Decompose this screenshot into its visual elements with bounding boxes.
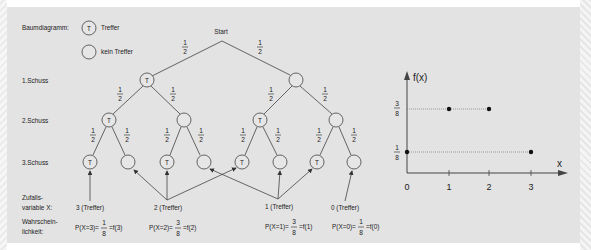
svg-text:2: 2 <box>269 95 273 102</box>
svg-text:P(X=1)=: P(X=1)= <box>265 223 289 231</box>
outcome-arrows <box>90 168 352 201</box>
tree-leaf-8 <box>347 155 361 169</box>
tree-node-l2-miss-a <box>177 113 191 127</box>
svg-text:T: T <box>240 159 244 166</box>
svg-text:3: 3 <box>292 218 296 225</box>
svg-text:1: 1 <box>118 86 122 93</box>
svg-text:1: 1 <box>258 39 262 46</box>
x-axis-label: x <box>557 158 562 169</box>
svg-text:1: 1 <box>171 86 175 93</box>
svg-text:2: 2 <box>165 136 169 143</box>
svg-text:1: 1 <box>359 218 363 225</box>
outcome-3: 3 (Treffer) <box>76 204 104 212</box>
svg-text:3: 3 <box>528 182 533 192</box>
svg-text:1: 1 <box>352 127 356 134</box>
svg-text:1: 1 <box>125 127 129 134</box>
svg-text:8: 8 <box>176 230 180 237</box>
random-variable-label-2: variable X: <box>22 204 52 211</box>
y-axis-arrow-icon <box>404 71 410 80</box>
svg-text:3: 3 <box>395 100 399 107</box>
svg-text:2: 2 <box>323 95 327 102</box>
probability-p2: P(X=2)= 3 8 =f(2) <box>149 219 196 237</box>
tree-node-l2-miss-b <box>329 113 343 127</box>
legend-hit-symbol: T <box>87 25 91 32</box>
svg-text:8: 8 <box>359 229 363 236</box>
svg-text:1: 1 <box>241 127 245 134</box>
random-variable-label-1: Zufalls- <box>22 194 43 201</box>
tree-node-l1-miss <box>289 73 303 87</box>
data-point-x3 <box>529 150 533 154</box>
svg-text:2: 2 <box>258 48 262 55</box>
tree-leaf-6 <box>273 155 287 169</box>
legend-title: Baumdiagramm: <box>22 24 69 32</box>
svg-text:2: 2 <box>352 136 356 143</box>
outcome-1: 1 (Treffer) <box>265 203 293 211</box>
svg-text:1: 1 <box>446 182 451 192</box>
svg-text:8: 8 <box>395 154 399 161</box>
tree-node-l1-hit-label: T <box>145 77 149 84</box>
svg-text:2: 2 <box>241 136 245 143</box>
svg-text:8: 8 <box>102 230 106 237</box>
legend-hit-label: Treffer <box>101 24 120 31</box>
svg-text:8: 8 <box>292 229 296 236</box>
svg-text:2: 2 <box>317 136 321 143</box>
tree-leaf-2 <box>121 155 135 169</box>
data-point-x2 <box>487 107 491 111</box>
svg-text:T: T <box>88 159 92 166</box>
svg-text:2: 2 <box>91 136 95 143</box>
outcome-0: 0 (Treffer) <box>331 204 359 212</box>
tree-leaves: T T T T <box>83 155 361 169</box>
tree-leaf-4 <box>197 155 211 169</box>
svg-text:1: 1 <box>199 127 203 134</box>
svg-text:P(X=2)=: P(X=2)= <box>149 224 173 232</box>
svg-text:P(X=0)=: P(X=0)= <box>332 223 356 231</box>
probability-p1: P(X=1)= 3 8 =f(1) <box>265 218 312 236</box>
data-point-x0 <box>405 150 409 154</box>
diagram-canvas: Baumdiagramm: T Treffer kein Treffer 1.S… <box>0 0 591 250</box>
x-axis-arrow-icon <box>558 170 568 176</box>
svg-text:2: 2 <box>486 182 491 192</box>
level-label-1: 1.Schuss <box>22 77 48 84</box>
svg-text:8: 8 <box>395 110 399 117</box>
svg-text:1: 1 <box>102 219 106 226</box>
level-label-2: 2.Schuss <box>22 117 48 124</box>
svg-text:=f(0): =f(0) <box>366 223 379 231</box>
svg-text:1: 1 <box>276 127 280 134</box>
svg-text:2: 2 <box>199 136 203 143</box>
svg-text:T: T <box>165 159 169 166</box>
svg-text:1: 1 <box>395 144 399 151</box>
svg-text:=f(1): =f(1) <box>299 223 312 231</box>
svg-text:1: 1 <box>91 127 95 134</box>
svg-text:2: 2 <box>125 136 129 143</box>
level-label-3: 3.Schuss <box>22 159 48 166</box>
svg-text:1: 1 <box>323 86 327 93</box>
svg-text:2: 2 <box>276 136 280 143</box>
svg-text:=f(3): =f(3) <box>109 224 122 232</box>
legend: Baumdiagramm: T Treffer kein Treffer <box>22 21 134 59</box>
probability-label-1: Wahrschein- <box>22 218 58 225</box>
svg-text:0: 0 <box>404 182 409 192</box>
probability-p0: P(X=0)= 1 8 =f(0) <box>332 218 379 236</box>
outcome-2: 2 (Treffer) <box>154 204 182 212</box>
svg-text:T: T <box>315 159 319 166</box>
svg-text:1: 1 <box>183 39 187 46</box>
svg-text:2: 2 <box>183 48 187 55</box>
legend-miss-label: kein Treffer <box>101 48 134 55</box>
probability-chart: f(x) x 0 1 2 3 3 8 1 8 <box>394 71 568 192</box>
legend-miss-node-icon <box>82 45 96 59</box>
svg-text:1: 1 <box>165 127 169 134</box>
svg-text:1: 1 <box>269 86 273 93</box>
y-axis-label: f(x) <box>413 72 427 83</box>
svg-text:T: T <box>258 117 262 124</box>
tree-edges <box>93 41 351 155</box>
svg-text:P(X=3)=: P(X=3)= <box>75 224 99 232</box>
svg-text:=f(2): =f(2) <box>183 224 196 232</box>
svg-text:2: 2 <box>171 95 175 102</box>
svg-text:2: 2 <box>118 95 122 102</box>
tree-root-label: Start <box>214 28 228 35</box>
data-point-x1 <box>447 107 451 111</box>
probability-label-2: lichkeit: <box>22 228 44 235</box>
svg-text:T: T <box>107 117 111 124</box>
probability-p3: P(X=3)= 1 8 =f(3) <box>75 219 122 237</box>
svg-text:1: 1 <box>317 127 321 134</box>
